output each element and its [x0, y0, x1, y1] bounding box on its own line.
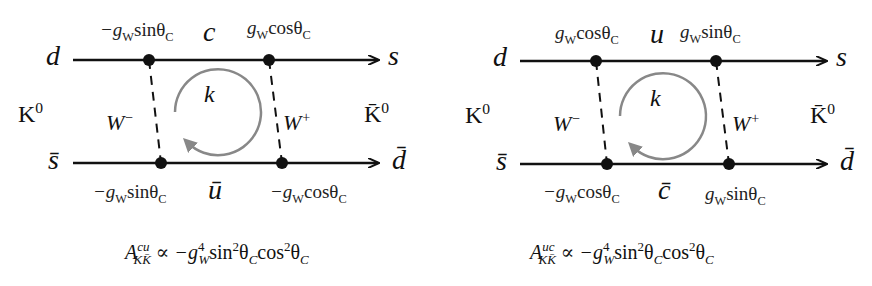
w-minus-propagator: [596, 61, 607, 164]
vertex-bottom-right: [723, 158, 735, 170]
vertex-bottom-left: [155, 157, 167, 169]
coupling-bottom-left: −gWcosθC: [543, 182, 620, 205]
w-minus-propagator: [149, 60, 161, 163]
amplitude-formula-uc: AucKK̄ ∝ −g4Wsin2θCcos2θC: [530, 240, 714, 266]
incoming-bottom-antiquark: s̄: [48, 146, 59, 174]
coupling-top-right: gWsinθC: [680, 22, 741, 45]
w-plus-label: W+: [283, 110, 311, 134]
top-internal-quark: u: [650, 20, 664, 48]
w-plus-label: W+: [732, 111, 760, 135]
final-meson: K̄0: [810, 101, 835, 127]
w-plus-propagator: [269, 60, 282, 163]
bottom-internal-antiquark: c̄: [658, 176, 670, 204]
outgoing-top-quark: s: [836, 43, 847, 71]
vertex-bottom-left: [601, 158, 613, 170]
loop-momentum-arrow-icon: [620, 73, 706, 159]
outgoing-top-quark: s: [388, 42, 399, 70]
coupling-bottom-left: −gWsinθC: [93, 182, 167, 205]
coupling-bottom-right: gWsinθC: [705, 184, 766, 207]
loop-momentum-arrow-icon: [175, 69, 261, 155]
coupling-top-left: −gWsinθC: [100, 20, 174, 43]
final-meson: K̄0: [364, 100, 389, 126]
loop-momentum-label: k: [650, 86, 661, 110]
vertex-top-left: [590, 55, 602, 67]
bottom-internal-antiquark: ū: [208, 176, 222, 204]
amplitude-formula-cu: AcuKK̄ ∝ −g4Wsin2θCcos2θC: [125, 240, 309, 266]
vertex-top-right: [710, 55, 722, 67]
initial-meson: K0: [18, 100, 43, 126]
incoming-bottom-antiquark: s̄: [496, 147, 507, 175]
w-plus-propagator: [716, 61, 729, 164]
incoming-top-quark: d: [493, 43, 507, 71]
loop-momentum-label: k: [204, 82, 215, 106]
coupling-bottom-right: −gWcosθC: [270, 182, 347, 205]
top-internal-quark: c: [203, 18, 215, 46]
vertex-top-left: [143, 54, 155, 66]
outgoing-bottom-antiquark: d̄: [392, 146, 406, 174]
coupling-top-left: gWcosθC: [555, 23, 619, 46]
w-minus-label: W−: [553, 111, 581, 135]
outgoing-bottom-antiquark: d̄: [840, 147, 854, 175]
vertex-top-right: [263, 54, 275, 66]
vertex-bottom-right: [276, 157, 288, 169]
w-minus-label: W−: [106, 110, 134, 134]
incoming-top-quark: d: [46, 42, 60, 70]
initial-meson: K0: [465, 101, 490, 127]
coupling-top-right: gWcosθC: [247, 18, 311, 41]
